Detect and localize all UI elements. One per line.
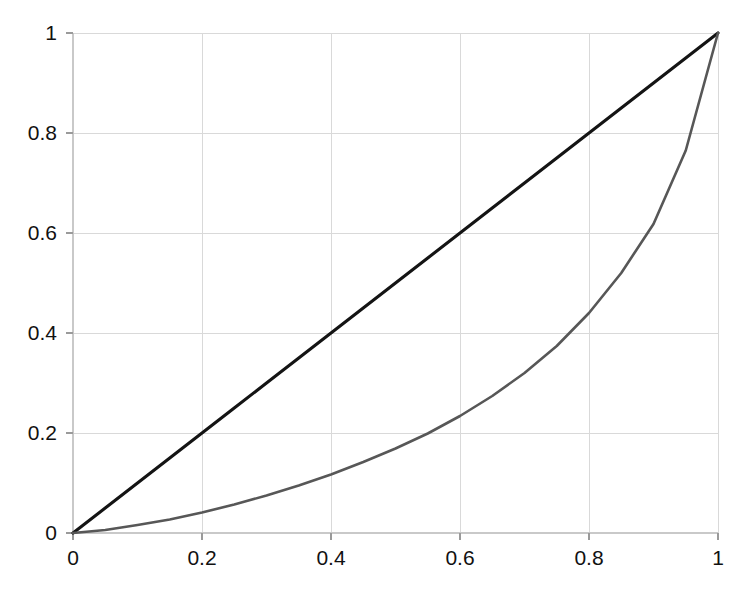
x-axis-tick-label: 0.8: [574, 546, 603, 569]
x-axis-tick-label: 1: [712, 546, 724, 569]
y-axis-tick-label: 0.2: [28, 421, 57, 444]
y-axis-tick-label: 0.8: [28, 121, 57, 144]
chart-container: 00.20.40.60.81 00.20.40.60.81: [0, 0, 748, 594]
y-axis-tick-label: 0: [45, 521, 57, 544]
x-axis-tick-label: 0.6: [445, 546, 474, 569]
x-axis-tick-labels: 00.20.40.60.81: [67, 546, 724, 569]
x-axis-tick-label: 0: [67, 546, 79, 569]
y-axis-tick-label: 0.4: [28, 321, 58, 344]
series-line-equality-line: [73, 33, 718, 533]
y-axis-tick-label: 1: [45, 21, 57, 44]
x-axis-tick-label: 0.4: [316, 546, 346, 569]
chart-series: [73, 33, 718, 533]
chart-plot: 00.20.40.60.81 00.20.40.60.81: [0, 0, 748, 594]
x-axis-tick-label: 0.2: [187, 546, 216, 569]
y-axis-tick-labels: 00.20.40.60.81: [28, 21, 58, 544]
y-axis-tick-label: 0.6: [28, 221, 57, 244]
